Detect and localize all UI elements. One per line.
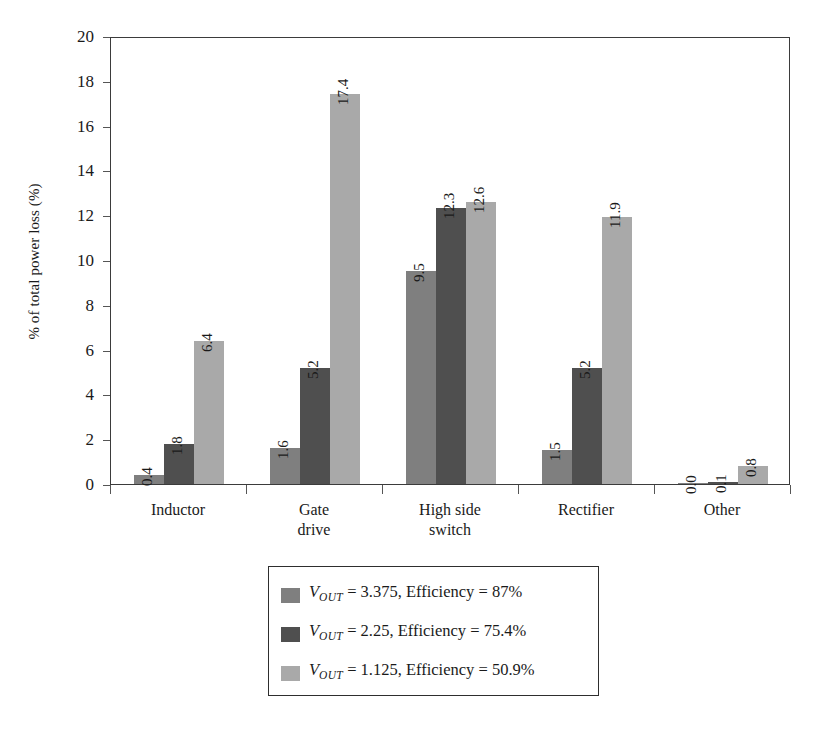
x-axis-category-label: Other [654, 500, 790, 520]
bar-value-label: 1.8 [170, 436, 185, 455]
legend-color-swatch [281, 666, 300, 681]
y-tick-label: 8 [48, 297, 94, 314]
legend-color-swatch [281, 627, 300, 642]
bar-value-label: 0.0 [684, 475, 699, 494]
y-tick-mark [103, 351, 110, 352]
y-tick-mark [103, 82, 110, 83]
bar [300, 368, 330, 484]
y-tick-label: 18 [48, 73, 94, 90]
x-tick-mark [246, 485, 247, 494]
y-tick-mark [103, 127, 110, 128]
bar-value-label: 9.5 [412, 263, 427, 282]
legend-item[interactable]: VOUT = 1.125, Efficiency = 50.9% [281, 655, 598, 691]
y-tick-label: 4 [48, 386, 94, 403]
plot-area: 0.41.86.41.65.217.49.512.312.61.55.211.9… [110, 37, 790, 485]
x-tick-mark [790, 485, 791, 494]
legend-label: VOUT = 1.125, Efficiency = 50.9% [309, 661, 535, 684]
bar [572, 368, 602, 484]
y-tick-label: 6 [48, 342, 94, 359]
y-tick-mark [103, 485, 110, 486]
y-tick-mark [103, 37, 110, 38]
bar-value-label: 5.2 [306, 360, 321, 379]
legend-symbol-subscript: OUT [319, 592, 343, 604]
bar-value-label: 0.1 [714, 474, 729, 493]
bar-value-label: 11.9 [608, 203, 623, 229]
bar [436, 208, 466, 484]
y-tick-label: 14 [48, 162, 94, 179]
x-axis-category-label: Rectifier [518, 500, 654, 520]
legend-item[interactable]: VOUT = 3.375, Efficiency = 87% [281, 577, 598, 613]
y-tick-mark [103, 261, 110, 262]
bar [330, 94, 360, 484]
legend-label: VOUT = 3.375, Efficiency = 87% [309, 583, 522, 606]
legend-symbol-subscript: OUT [319, 631, 343, 643]
y-tick-mark [103, 395, 110, 396]
y-axis-title: % of total power loss (%) [26, 162, 43, 362]
bar [406, 271, 436, 484]
x-tick-mark [110, 485, 111, 494]
bar-value-label: 5.2 [578, 360, 593, 379]
y-tick-label: 20 [48, 28, 94, 45]
y-tick-label: 0 [48, 476, 94, 493]
legend-symbol: VOUT [309, 621, 343, 640]
legend-color-swatch [281, 588, 300, 603]
x-axis-category-label: High side switch [382, 500, 518, 540]
bar-value-label: 1.6 [276, 440, 291, 459]
x-axis-category-label: Gate drive [246, 500, 382, 540]
bar [194, 341, 224, 484]
y-tick-mark [103, 216, 110, 217]
bar-value-label: 0.8 [744, 458, 759, 477]
x-tick-mark [518, 485, 519, 494]
x-axis-category-label: Inductor [110, 500, 246, 520]
legend-symbol: VOUT [309, 660, 343, 679]
bar [466, 202, 496, 484]
y-tick-label: 12 [48, 207, 94, 224]
bar-value-label: 12.6 [472, 187, 487, 213]
x-tick-mark [654, 485, 655, 494]
legend-symbol-subscript: OUT [319, 670, 343, 682]
bar-chart: % of total power loss (%) 02468101214161… [0, 0, 819, 734]
y-tick-label: 10 [48, 252, 94, 269]
legend-symbol: VOUT [309, 582, 343, 601]
bar-value-label: 12.3 [442, 193, 457, 219]
y-tick-label: 16 [48, 118, 94, 135]
bar-value-label: 0.4 [140, 467, 155, 486]
legend-label: VOUT = 2.25, Efficiency = 75.4% [309, 622, 526, 645]
x-tick-mark [382, 485, 383, 494]
bar [602, 217, 632, 484]
y-tick-label: 2 [48, 431, 94, 448]
y-tick-mark [103, 306, 110, 307]
legend-item[interactable]: VOUT = 2.25, Efficiency = 75.4% [281, 616, 598, 652]
y-tick-mark [103, 171, 110, 172]
bar-value-label: 17.4 [336, 79, 351, 105]
chart-legend: VOUT = 3.375, Efficiency = 87%VOUT = 2.2… [268, 566, 599, 696]
bar-value-label: 1.5 [548, 443, 563, 462]
y-tick-mark [103, 440, 110, 441]
bar-value-label: 6.4 [200, 333, 215, 352]
